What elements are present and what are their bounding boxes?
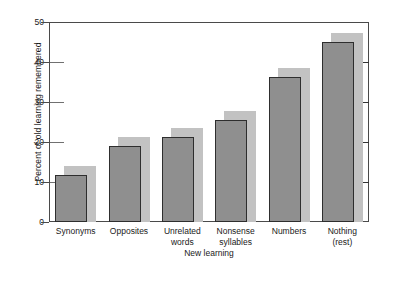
bar bbox=[322, 33, 363, 222]
bar-face bbox=[322, 42, 354, 222]
y-tick-mark bbox=[41, 62, 49, 63]
y-tick-mark bbox=[41, 142, 49, 143]
bars-layer bbox=[49, 22, 369, 222]
bar bbox=[109, 137, 150, 222]
bar-face bbox=[162, 137, 194, 222]
bar bbox=[162, 128, 203, 222]
y-tick-mark bbox=[41, 182, 49, 183]
y-tick-label: 30 bbox=[16, 97, 44, 107]
y-tick-mark bbox=[41, 22, 49, 23]
x-tick-label: Nonsense syllables bbox=[209, 226, 262, 247]
bar-face bbox=[269, 77, 301, 222]
y-tick-mark bbox=[41, 222, 49, 223]
bar bbox=[215, 111, 256, 222]
bar bbox=[269, 68, 310, 222]
y-tick-label: 0 bbox=[16, 217, 44, 227]
x-tick-label: Numbers bbox=[262, 226, 315, 237]
bar-face bbox=[55, 175, 87, 222]
bar bbox=[55, 166, 96, 222]
y-tick-label: 50 bbox=[16, 17, 44, 27]
x-tick-label: Synonyms bbox=[49, 226, 102, 237]
bar-chart: Percent of old learning remembered 01020… bbox=[0, 0, 413, 281]
x-tick-label: Unrelated words bbox=[156, 226, 209, 247]
x-axis-title: New learning bbox=[49, 248, 369, 258]
bar-face bbox=[215, 120, 247, 222]
x-tick-label: Opposites bbox=[102, 226, 155, 237]
bar-face bbox=[109, 146, 141, 222]
y-tick-label: 20 bbox=[16, 137, 44, 147]
y-tick-label: 40 bbox=[16, 57, 44, 67]
y-tick-mark bbox=[41, 102, 49, 103]
x-tick-label: Nothing (rest) bbox=[316, 226, 369, 247]
y-tick-label: 10 bbox=[16, 177, 44, 187]
